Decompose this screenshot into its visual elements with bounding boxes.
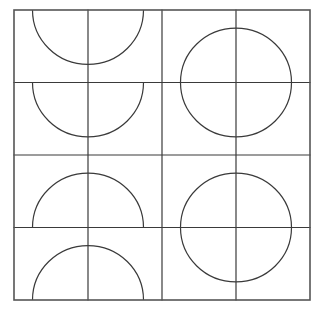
tiling-figure — [0, 0, 324, 317]
tiling-canvas — [0, 0, 324, 317]
